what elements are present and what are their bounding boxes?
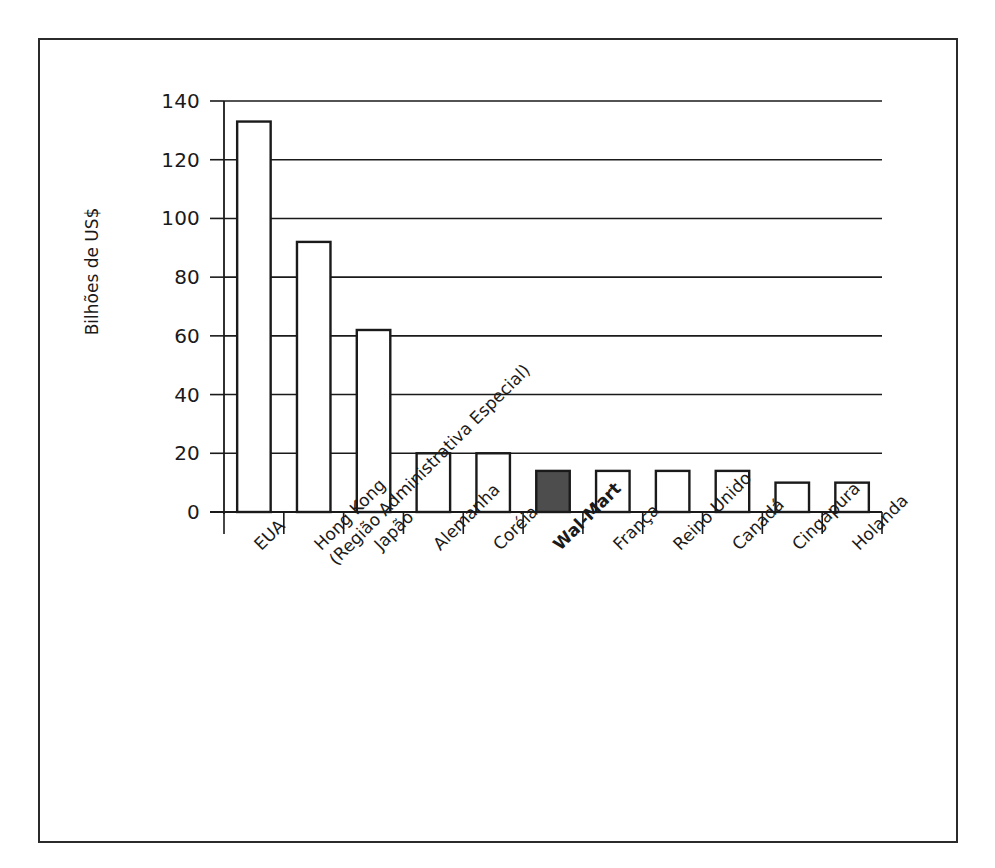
bar-3[interactable] bbox=[357, 330, 390, 512]
y-tick-label: 60 bbox=[138, 326, 200, 346]
bar-7[interactable] bbox=[596, 471, 629, 512]
bar-6[interactable] bbox=[536, 471, 569, 512]
y-axis-title: Bilhões de US$ bbox=[83, 177, 102, 367]
bar-10[interactable] bbox=[776, 483, 809, 512]
y-tick-label: 140 bbox=[138, 91, 200, 111]
bar-1[interactable] bbox=[237, 122, 270, 512]
y-tick-label: 120 bbox=[138, 150, 200, 170]
bar-9[interactable] bbox=[716, 471, 749, 512]
bar-11[interactable] bbox=[835, 483, 868, 512]
y-tick-label: 100 bbox=[138, 208, 200, 228]
bar-4[interactable] bbox=[417, 453, 450, 512]
y-axis-tick-labels: 020406080100120140 bbox=[138, 40, 200, 845]
y-tick-label: 0 bbox=[138, 502, 200, 522]
y-tick-label: 40 bbox=[138, 385, 200, 405]
y-tick-label: 80 bbox=[138, 267, 200, 287]
figure-frame: 020406080100120140 Bilhões de US$ EUAHon… bbox=[38, 38, 958, 843]
x-tick-mark-group bbox=[224, 512, 882, 534]
y-tick-label: 20 bbox=[138, 443, 200, 463]
bar-8[interactable] bbox=[656, 471, 689, 512]
bar-5[interactable] bbox=[476, 453, 509, 512]
bar-2[interactable] bbox=[297, 242, 330, 512]
